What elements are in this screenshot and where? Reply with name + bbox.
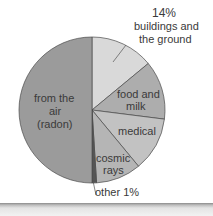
food-label-line1: food and (117, 88, 160, 100)
buildings-percent-label: 14% (152, 7, 176, 19)
medical-label: medical (118, 125, 156, 137)
cosmic-label-line2: rays (103, 164, 124, 176)
buildings-label-line1: buildings and (134, 20, 199, 32)
radon-label-line2: air (49, 105, 61, 117)
cosmic-label-line1: cosmic (96, 152, 130, 164)
food-label-line2: milk (126, 100, 146, 112)
bottom-separator (0, 203, 213, 216)
radon-label-line3: (radon) (37, 118, 72, 130)
other-label: other 1% (95, 186, 139, 198)
buildings-label-line2: the ground (139, 33, 192, 45)
radon-label-line1: from the (34, 92, 74, 104)
